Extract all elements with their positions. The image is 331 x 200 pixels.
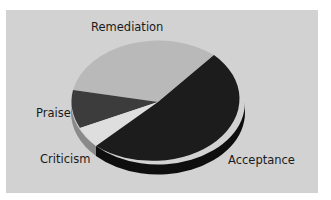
label-praise: Praise <box>36 106 71 120</box>
pie-chart <box>0 0 331 200</box>
label-acceptance: Acceptance <box>228 153 295 167</box>
label-remediation: Remediation <box>91 20 163 34</box>
label-criticism: Criticism <box>40 152 90 166</box>
